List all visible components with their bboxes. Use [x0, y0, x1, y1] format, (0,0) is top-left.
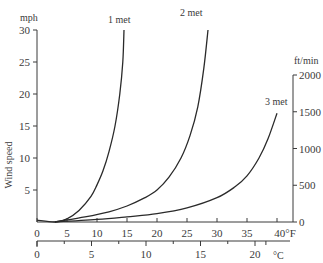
left-y-tick-label: 15: [19, 120, 31, 132]
curve-1-met: [37, 30, 124, 222]
right-y-tick-label: 500: [299, 179, 316, 191]
x-axis-f-tick-label: 30: [212, 227, 224, 239]
left-y-tick-label: 20: [19, 88, 31, 100]
x-axis-f-tick-label: 5: [64, 227, 70, 239]
left-axis-unit: mph: [20, 12, 38, 23]
right-y-tick-label: 2000: [299, 69, 322, 81]
x-axis-f-tick-label: 0: [34, 227, 40, 239]
tick-labels: 302520151050510152025303540°F20001500100…: [19, 24, 322, 260]
x-axis-f-tick-label: 15: [122, 227, 134, 239]
x-axis-c-tick-label: 0: [34, 248, 40, 260]
x-axis-c-tick-label: 5: [89, 248, 95, 260]
right-y-tick-label: 0: [299, 216, 305, 228]
curve-2-met: [55, 30, 208, 222]
left-y-tick-label: 30: [19, 24, 31, 36]
curve-3-met: [55, 113, 277, 222]
curves: [37, 30, 277, 222]
left-y-tick-label: 10: [19, 152, 31, 164]
wind-speed-chart: 302520151050510152025303540°F20001500100…: [0, 0, 323, 263]
right-axis-unit: ft/min: [294, 55, 318, 66]
axes: [33, 30, 297, 247]
x-axis-f-tick-label: 10: [92, 227, 104, 239]
series-label-2-met: 2 met: [180, 7, 203, 18]
series-label-3-met: 3 met: [265, 96, 288, 107]
celsius-unit-label: °C: [273, 250, 284, 261]
x-axis-f-tick-label: 20: [152, 227, 164, 239]
x-axis-f-tick-label: 35: [242, 227, 254, 239]
left-y-tick-label: 5: [25, 184, 31, 196]
right-y-tick-label: 1500: [299, 106, 322, 118]
left-y-tick-label: 25: [19, 56, 31, 68]
series-label-1-met: 1 met: [108, 14, 131, 25]
x-axis-f-tick-label: 40°F: [274, 227, 296, 239]
y-axis-title: Wind speed: [3, 141, 14, 188]
right-y-tick-label: 1000: [299, 143, 322, 155]
x-axis-f-tick-label: 25: [182, 227, 194, 239]
x-axis-c-tick-label: 10: [141, 248, 153, 260]
x-axis-c-tick-label: 20: [250, 248, 262, 260]
x-axis-c-tick-label: 15: [195, 248, 207, 260]
